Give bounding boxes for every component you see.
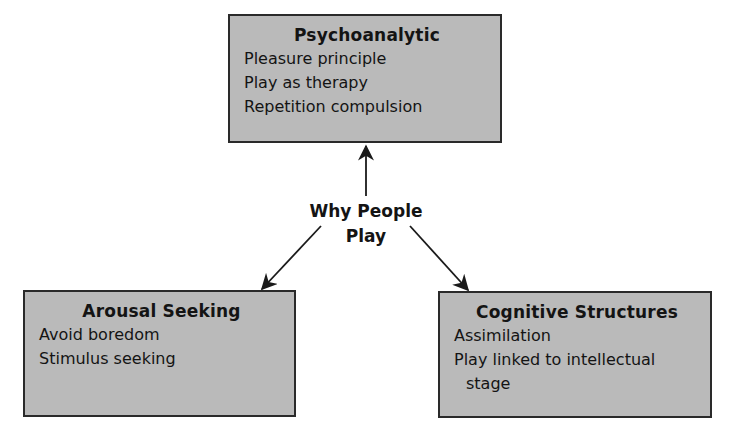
- node-cognitive-structures: Cognitive Structures Assimilation Play l…: [438, 291, 712, 418]
- node-item: Stimulus seeking: [39, 347, 284, 371]
- node-item: Repetition compulsion: [244, 95, 490, 119]
- node-item-continuation: stage: [454, 372, 700, 396]
- node-title: Psychoanalytic: [244, 24, 490, 46]
- node-arousal-seeking: Arousal Seeking Avoid boredom Stimulus s…: [23, 290, 296, 417]
- node-item: Pleasure principle: [244, 47, 490, 71]
- node-item: Assimilation: [454, 324, 700, 348]
- center-label-line2: Play: [286, 224, 446, 249]
- center-label: Why People Play: [286, 199, 446, 249]
- node-title: Arousal Seeking: [39, 300, 284, 322]
- center-label-line1: Why People: [286, 199, 446, 224]
- node-item: Play as therapy: [244, 71, 490, 95]
- node-item: Play linked to intellectual stage: [454, 348, 700, 396]
- node-psychoanalytic: Psychoanalytic Pleasure principle Play a…: [228, 14, 502, 143]
- node-title: Cognitive Structures: [454, 301, 700, 323]
- node-item-text: Play linked to intellectual: [454, 350, 655, 369]
- node-item: Avoid boredom: [39, 323, 284, 347]
